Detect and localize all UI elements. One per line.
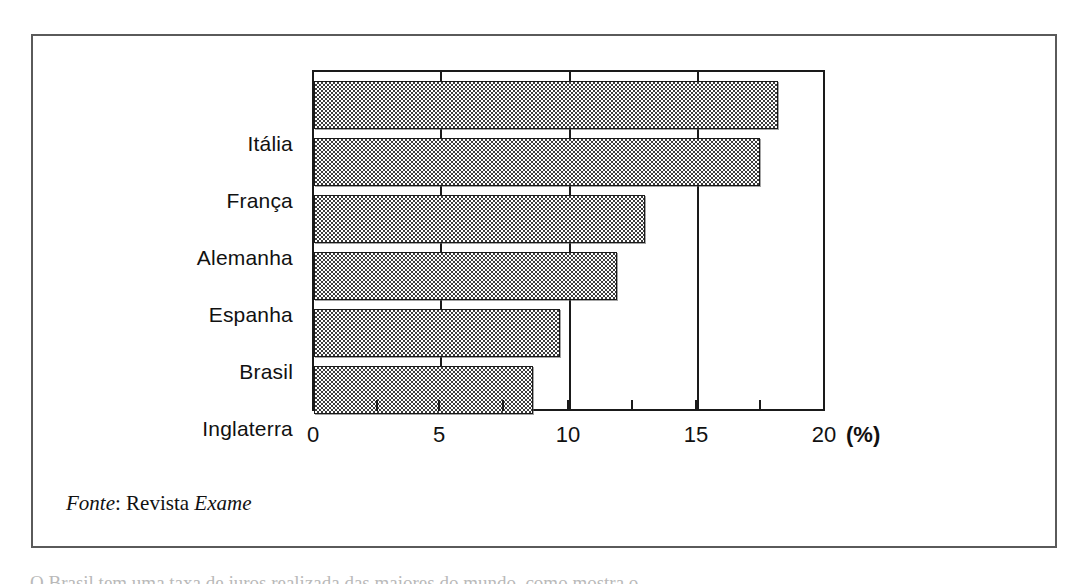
source-note-separator: : Revista xyxy=(115,491,194,515)
xtick-label-20: 20 xyxy=(812,424,836,446)
category-label-espanha: Espanha xyxy=(33,304,293,325)
xtick-label-15: 15 xyxy=(684,424,708,446)
axis-unit-label: (%) xyxy=(846,424,880,446)
xtick-mark-2_5 xyxy=(376,400,378,411)
xtick-mark-15 xyxy=(695,400,697,411)
category-label-franca: França xyxy=(33,190,293,211)
bar-espanha[interactable] xyxy=(314,252,617,300)
category-label-italia: Itália xyxy=(33,133,293,154)
xtick-mark-0 xyxy=(312,400,314,411)
bar-brasil[interactable] xyxy=(314,309,560,357)
xtick-mark-17_5 xyxy=(759,400,761,411)
source-note-prefix: Fonte xyxy=(66,491,115,515)
bar-italia[interactable] xyxy=(314,81,778,129)
xtick-label-10: 10 xyxy=(556,424,580,446)
bar-inglaterra[interactable] xyxy=(314,366,533,414)
xtick-label-0: 0 xyxy=(307,424,319,446)
xtick-mark-5 xyxy=(438,400,440,411)
xtick-mark-10 xyxy=(567,400,569,411)
plot-area xyxy=(312,70,825,411)
category-label-alemanha: Alemanha xyxy=(33,247,293,268)
category-label-inglaterra: Inglaterra xyxy=(33,418,293,439)
category-label-brasil: Brasil xyxy=(33,361,293,382)
page-caption-cutoff: O Brasil tem uma taxa de juros realizada… xyxy=(30,572,1050,584)
figure-frame: Itália França Alemanha Espanha Brasil In… xyxy=(31,34,1057,548)
xtick-mark-12_5 xyxy=(631,400,633,411)
xtick-label-5: 5 xyxy=(433,424,445,446)
xtick-mark-7_5 xyxy=(502,400,504,411)
bar-chart: Itália França Alemanha Espanha Brasil In… xyxy=(33,36,1059,550)
source-note-publication: Exame xyxy=(194,491,251,515)
bar-alemanha[interactable] xyxy=(314,195,645,243)
xtick-mark-20 xyxy=(823,400,825,411)
source-note: Fonte: Revista Exame xyxy=(66,491,251,516)
bar-franca[interactable] xyxy=(314,138,760,186)
